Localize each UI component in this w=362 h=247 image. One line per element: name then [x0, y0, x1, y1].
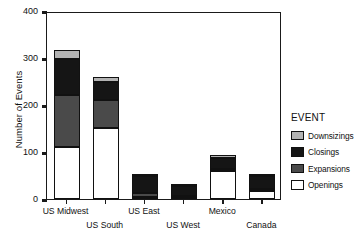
- bar-us-south: [93, 77, 119, 199]
- x-axis-label-mexico: Mexico: [187, 206, 257, 216]
- x-tick-mark: [105, 200, 106, 204]
- legend-label-closings: Closings: [308, 147, 339, 157]
- bar-segment-openings: [210, 171, 236, 199]
- x-tick-mark: [222, 200, 223, 204]
- bar-segment-openings: [54, 147, 80, 199]
- legend-item-closings[interactable]: Closings: [291, 147, 362, 158]
- x-axis-label-us-west: US West: [148, 220, 218, 230]
- bar-segment-expansions: [171, 196, 197, 198]
- bar-segment-downsizings: [54, 50, 80, 59]
- legend-item-downsizings[interactable]: Downsizings: [291, 130, 362, 141]
- legend-label-expansions: Expansions: [308, 164, 350, 174]
- bar-us-east: [132, 174, 158, 199]
- bar-segment-openings: [93, 128, 119, 199]
- x-tick-mark: [183, 200, 184, 204]
- plot-area: [46, 12, 281, 200]
- x-axis-label-us-south: US South: [70, 220, 140, 230]
- bar-segment-downsizings: [171, 184, 197, 186]
- bar-us-west: [171, 184, 197, 199]
- bar-segment-downsizings: [93, 77, 119, 82]
- bar-segment-downsizings: [249, 174, 275, 176]
- bar-segment-downsizings: [210, 155, 236, 157]
- y-tick-label: 0: [0, 194, 38, 204]
- y-tick-label: 100: [0, 147, 38, 157]
- legend-item-openings[interactable]: Openings: [291, 180, 362, 191]
- x-axis-label-us-east: US East: [109, 206, 179, 216]
- bar-segment-openings: [132, 197, 158, 199]
- legend-title: EVENT: [291, 112, 362, 123]
- bar-segment-openings: [249, 191, 275, 199]
- bar-segment-closings: [93, 82, 119, 101]
- legend-swatch-openings: [291, 180, 304, 190]
- y-tick-label: 400: [0, 6, 38, 16]
- x-tick-mark: [261, 200, 262, 204]
- x-tick-mark: [66, 200, 67, 204]
- bar-segment-closings: [171, 186, 197, 196]
- bar-us-midwest: [54, 50, 80, 199]
- bar-canada: [249, 174, 275, 199]
- bar-mexico: [210, 155, 236, 199]
- bar-segment-closings: [54, 59, 80, 94]
- bar-segment-expansions: [93, 100, 119, 127]
- legend-swatch-closings: [291, 147, 304, 157]
- bar-segment-expansions: [132, 193, 158, 197]
- stacked-bar-chart: Number of Events 0100200300400 US Midwes…: [0, 0, 362, 247]
- bar-segment-closings: [210, 158, 236, 170]
- legend-label-downsizings: Downsizings: [308, 131, 353, 141]
- legend-swatch-downsizings: [291, 131, 304, 141]
- legend-items: DownsizingsClosingsExpansionsOpenings: [291, 130, 362, 191]
- legend-item-expansions[interactable]: Expansions: [291, 163, 362, 174]
- x-tick-mark: [144, 200, 145, 204]
- x-axis-label-canada: Canada: [226, 220, 296, 230]
- y-tick-label: 300: [0, 53, 38, 63]
- legend-swatch-expansions: [291, 164, 304, 174]
- legend-label-openings: Openings: [308, 180, 343, 190]
- bar-segment-downsizings: [132, 174, 158, 176]
- y-tick-label: 200: [0, 100, 38, 110]
- x-axis-label-us-midwest: US Midwest: [31, 206, 101, 216]
- legend: EVENT DownsizingsClosingsExpansionsOpeni…: [291, 112, 362, 196]
- bar-segment-closings: [249, 176, 275, 189]
- bar-segment-closings: [132, 176, 158, 193]
- bar-segment-expansions: [54, 95, 80, 148]
